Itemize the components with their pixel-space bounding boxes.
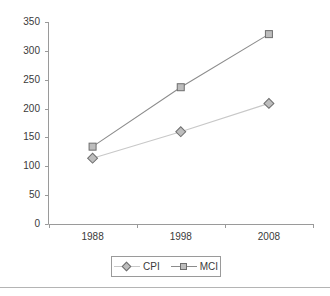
y-tick-label: 300: [6, 46, 40, 56]
y-tick-label: 200: [6, 104, 40, 114]
plot-area: [0, 0, 330, 296]
chart-legend: CPI MCI: [111, 256, 221, 277]
diamond-marker-icon: [88, 153, 98, 163]
diamond-marker-icon: [122, 261, 132, 271]
legend-swatch-mci: [171, 261, 197, 273]
y-tick-label: 150: [6, 132, 40, 142]
legend-label-mci: MCI: [200, 262, 218, 272]
y-tick-label: 350: [6, 17, 40, 27]
diamond-marker-icon: [264, 98, 274, 108]
square-marker-icon: [177, 84, 184, 91]
line-chart: 050100150200250300350 198819982008 CPI M…: [0, 0, 330, 296]
legend-entry-mci: MCI: [171, 261, 218, 273]
series-lines: [93, 34, 269, 158]
x-tick-label: 1998: [156, 232, 206, 242]
square-marker-icon: [180, 263, 187, 270]
diamond-marker-icon: [176, 127, 186, 137]
square-marker-icon: [89, 143, 96, 150]
y-axis-ticks: [45, 23, 49, 225]
legend-swatch-cpi: [114, 261, 140, 273]
x-tick-label: 2008: [244, 232, 294, 242]
x-tick-label: 1988: [68, 232, 118, 242]
y-tick-label: 0: [6, 219, 40, 229]
y-tick-label: 100: [6, 161, 40, 171]
bottom-divider: [0, 287, 330, 288]
legend-entry-cpi: CPI: [114, 261, 160, 273]
square-marker-icon: [265, 31, 272, 38]
y-tick-label: 50: [6, 190, 40, 200]
series-markers: [88, 31, 274, 164]
y-tick-label: 250: [6, 75, 40, 85]
legend-label-cpi: CPI: [143, 262, 160, 272]
